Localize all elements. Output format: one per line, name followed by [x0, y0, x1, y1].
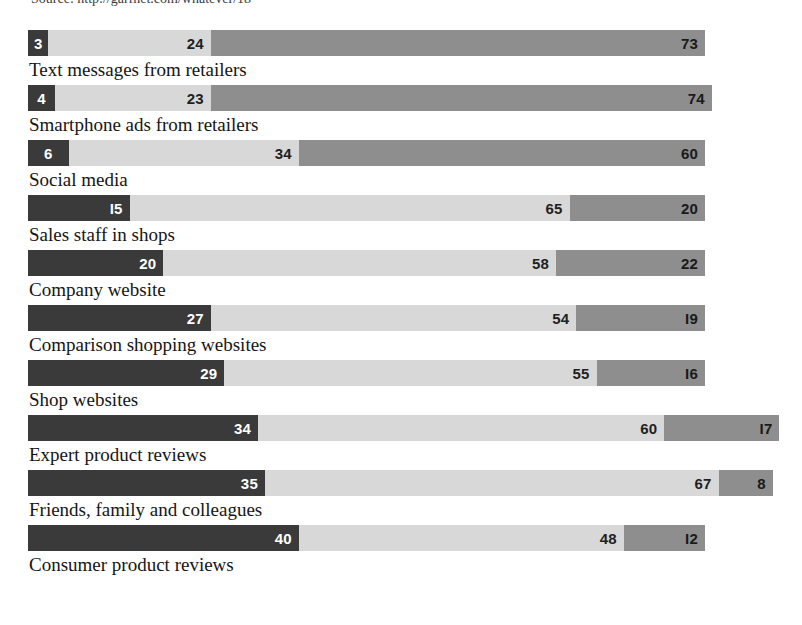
chart-row-label: Social media — [29, 167, 128, 193]
bar-segment-3: I9 — [576, 305, 705, 331]
bar-segment-1: 20 — [28, 250, 163, 276]
bar-segment-3: 60 — [299, 140, 705, 166]
bar-segment-3: I7 — [664, 415, 779, 441]
bar-segment-1: 6 — [28, 140, 69, 166]
bar-segment-2: 55 — [224, 360, 596, 386]
stacked-bar: 4048I2 — [28, 525, 705, 551]
bar-segment-1: 40 — [28, 525, 299, 551]
stacked-bar-chart: 32473Text messages from retailers42374Sm… — [0, 30, 802, 580]
bar-segment-1: 29 — [28, 360, 224, 386]
chart-row-label: Expert product reviews — [29, 442, 206, 468]
bar-segment-2: 34 — [69, 140, 299, 166]
chart-row: 35678Friends, family and colleagues — [0, 470, 802, 525]
stacked-bar: I56520 — [28, 195, 705, 221]
bar-segment-3: 73 — [211, 30, 705, 56]
chart-row: 2754I9Comparison shopping websites — [0, 305, 802, 360]
source-note-text: Source: http://garfnet.com/whatever/18 — [31, 0, 251, 7]
bar-segment-1: 27 — [28, 305, 211, 331]
stacked-bar: 205822 — [28, 250, 705, 276]
chart-row: 32473Text messages from retailers — [0, 30, 802, 85]
chart-row-label: Consumer product reviews — [29, 552, 234, 578]
chart-row-label: Comparison shopping websites — [29, 332, 267, 358]
bar-segment-2: 48 — [299, 525, 624, 551]
bar-segment-1: 4 — [28, 85, 55, 111]
stacked-bar: 35678 — [28, 470, 773, 496]
bar-segment-1: 3 — [28, 30, 48, 56]
chart-row-label: Sales staff in shops — [29, 222, 175, 248]
stacked-bar: 42374 — [28, 85, 712, 111]
source-note: Source: http://garfnet.com/whatever/18 — [0, 0, 802, 9]
bar-segment-2: 67 — [265, 470, 719, 496]
chart-row: 205822Company website — [0, 250, 802, 305]
chart-row: 42374Smartphone ads from retailers — [0, 85, 802, 140]
chart-row-label: Friends, family and colleagues — [29, 497, 262, 523]
chart-row: 2955I6Shop websites — [0, 360, 802, 415]
stacked-bar: 63460 — [28, 140, 705, 166]
chart-row: I56520Sales staff in shops — [0, 195, 802, 250]
chart-row-label: Smartphone ads from retailers — [29, 112, 259, 138]
bar-segment-1: 34 — [28, 415, 258, 441]
bar-segment-2: 23 — [55, 85, 211, 111]
chart-row-label: Shop websites — [29, 387, 138, 413]
bar-segment-2: 60 — [258, 415, 664, 441]
stacked-bar: 32473 — [28, 30, 705, 56]
bar-segment-2: 65 — [130, 195, 570, 221]
chart-row: 63460Social media — [0, 140, 802, 195]
bar-segment-3: 8 — [719, 470, 773, 496]
bar-segment-1: 35 — [28, 470, 265, 496]
bar-segment-3: 74 — [211, 85, 712, 111]
bar-segment-2: 58 — [163, 250, 556, 276]
chart-row-label: Text messages from retailers — [29, 57, 247, 83]
stacked-bar: 3460I7 — [28, 415, 779, 441]
bar-segment-2: 54 — [211, 305, 577, 331]
bar-segment-3: 22 — [556, 250, 705, 276]
bar-segment-3: I6 — [597, 360, 705, 386]
chart-row-label: Company website — [29, 277, 166, 303]
stacked-bar: 2955I6 — [28, 360, 705, 386]
chart-row: 4048I2Consumer product reviews — [0, 525, 802, 580]
bar-segment-3: 20 — [570, 195, 705, 221]
bar-segment-1: I5 — [28, 195, 130, 221]
stacked-bar: 2754I9 — [28, 305, 705, 331]
bar-segment-3: I2 — [624, 525, 705, 551]
chart-row: 3460I7Expert product reviews — [0, 415, 802, 470]
bar-segment-2: 24 — [48, 30, 210, 56]
